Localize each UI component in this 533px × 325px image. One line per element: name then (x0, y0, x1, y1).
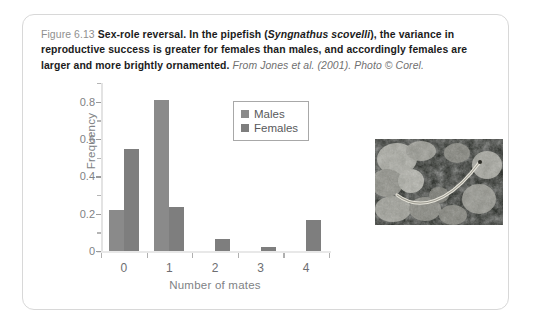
x-axis-tick (192, 253, 193, 258)
figure-card: Figure 6.13 Sex-role reversal. In the pi… (22, 14, 509, 310)
legend-item-females: Females (241, 121, 298, 135)
bar-females-2 (215, 239, 230, 251)
x-axis-tick (238, 253, 239, 258)
x-axis-tick-label: 1 (166, 261, 173, 275)
bar-males-0 (109, 210, 124, 251)
y-axis-tick-label: 0.4 (80, 170, 95, 182)
figure-caption: Figure 6.13 Sex-role reversal. In the pi… (41, 27, 493, 73)
legend-label: Males (254, 108, 285, 120)
x-axis-tick-label: 4 (303, 261, 310, 275)
y-axis-tick (96, 214, 101, 215)
x-axis-tick-label: 2 (212, 261, 219, 275)
y-axis-tick (96, 176, 101, 177)
figure-number: Figure 6.13 (41, 29, 95, 40)
caption-species-name: Syngnathus scovelli (268, 29, 370, 40)
y-axis-minor-tick (97, 195, 101, 196)
x-axis-tick (147, 253, 148, 258)
pipefish-photo-image (375, 139, 503, 225)
y-axis-tick (96, 102, 101, 103)
bar-chart: Frequency 00.20.40.60.8 01234 Number of … (51, 83, 341, 298)
y-axis-tick-labels: 00.20.40.60.8 (65, 83, 95, 251)
y-axis-minor-tick (97, 120, 101, 121)
y-axis-minor-tick (97, 83, 101, 84)
y-axis-minor-tick (97, 158, 101, 159)
y-axis-tick-label: 0 (89, 245, 95, 257)
y-axis-tick-label: 0.2 (80, 208, 95, 220)
caption-title: Sex-role reversal. (98, 29, 187, 40)
caption-body-part1: In the pipefish ( (186, 29, 268, 40)
y-axis-minor-tick (97, 232, 101, 233)
x-axis-tick (329, 253, 330, 258)
x-axis-tick-label: 0 (120, 261, 127, 275)
chart-legend: MalesFemales (233, 101, 309, 141)
legend-swatch-males (241, 110, 249, 118)
bar-females-0 (124, 149, 139, 251)
pipefish-photo (375, 139, 503, 225)
y-axis-tick-label: 0.6 (80, 133, 95, 145)
bar-females-3 (261, 247, 276, 251)
y-axis-tick (96, 139, 101, 140)
x-axis-tick-label: 3 (257, 261, 264, 275)
x-axis-line (97, 251, 331, 253)
y-axis-tick-label: 0.8 (80, 96, 95, 108)
y-axis-line (101, 83, 103, 251)
bar-males-1 (154, 100, 169, 251)
x-axis-tick (283, 253, 284, 258)
legend-label: Females (254, 122, 298, 134)
bar-females-1 (169, 207, 184, 251)
legend-swatch-females (241, 124, 249, 132)
x-axis-tick (101, 253, 102, 258)
y-axis-tick (96, 251, 101, 252)
caption-source: From Jones et al. (2001). Photo © Corel. (230, 60, 424, 71)
x-axis-label: Number of mates (101, 279, 329, 291)
bar-females-4 (306, 220, 321, 251)
figure-page: Figure 6.13 Sex-role reversal. In the pi… (0, 0, 533, 325)
legend-item-males: Males (241, 107, 298, 121)
